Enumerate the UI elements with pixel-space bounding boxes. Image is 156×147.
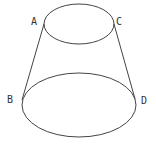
bottom-base-ellipse bbox=[22, 73, 136, 137]
frustum-diagram: A C B D bbox=[0, 0, 156, 147]
label-c: C bbox=[116, 16, 122, 27]
label-a: A bbox=[31, 16, 37, 27]
label-d: D bbox=[141, 95, 147, 106]
label-b: B bbox=[7, 94, 13, 105]
edge-ab bbox=[22, 24, 44, 100]
edge-cd bbox=[114, 24, 135, 99]
top-base-ellipse bbox=[44, 4, 114, 44]
